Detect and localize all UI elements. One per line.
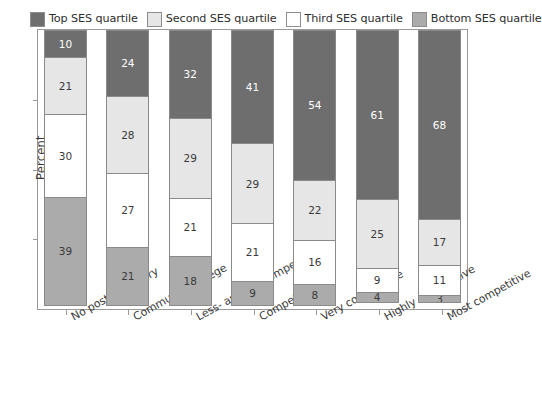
bar-segment: 39 [44,197,87,306]
y-axis-tick [33,100,38,101]
bar-segment-value: 18 [183,276,196,287]
y-axis-tick [33,170,38,171]
bar-segment-value: 21 [183,222,196,233]
bar-segment-value: 61 [370,110,383,121]
bar-segment-value: 28 [121,130,134,141]
bar-segment-value: 25 [370,229,383,240]
bar-segment: 11 [418,265,461,296]
bar-segment-value: 32 [183,69,196,80]
legend-item-label: Third SES quartile [305,13,403,24]
y-axis-tick [33,239,38,240]
bar-segment-value: 68 [433,120,446,131]
stacked-bar: 4129219 [231,30,274,309]
chart-legend: Top SES quartileSecond SES quartileThird… [30,9,478,29]
bar-segment-value: 9 [374,275,381,286]
stacked-bar: 5422168 [293,30,336,309]
bar-segment: 8 [293,284,336,306]
bar-segment-value: 9 [249,288,256,299]
bar-segment-value: 24 [121,58,134,69]
bar-segment: 61 [356,30,399,200]
legend-item: Bottom SES quartile [412,12,542,27]
legend-swatch-icon [30,12,45,27]
bar-segment-value: 21 [59,81,72,92]
bar-segment: 21 [169,198,212,257]
legend-swatch-icon [286,12,301,27]
bar-segment-value: 39 [59,246,72,257]
bar-segment: 10 [44,30,87,58]
legend-item: Second SES quartile [147,12,277,27]
bar-segment-value: 41 [246,82,259,93]
bars-container: 1021303924282721322921184129219542216861… [38,30,467,309]
bar-segment: 41 [231,30,274,144]
legend-item-label: Bottom SES quartile [431,13,542,24]
bar-segment: 17 [418,219,461,266]
stacked-bar: 612594 [356,30,399,309]
bar-segment: 9 [231,281,274,306]
bar-segment-value: 8 [311,290,318,301]
bar-segment: 22 [293,180,336,241]
bar-segment-value: 10 [59,39,72,50]
bar-segment: 24 [106,30,149,97]
bar-segment: 21 [231,223,274,282]
bar-segment: 3 [418,295,461,303]
bar-segment-value: 29 [183,153,196,164]
bar-segment-value: 17 [433,237,446,248]
stacked-bar: 6817113 [418,30,461,309]
bar-segment: 32 [169,30,212,119]
bar-segment: 16 [293,240,336,285]
bar-segment-value: 16 [308,257,321,268]
bar-segment: 27 [106,173,149,248]
stacked-bar: 10213039 [44,30,87,309]
bar-segment: 68 [418,30,461,220]
bar-segment-value: 21 [121,271,134,282]
bar-segment: 29 [231,143,274,224]
chart-plot-area: Percent 10213039242827213229211841292195… [37,29,468,310]
x-axis-labels: No postsecondaryCommunity collegeLess- a… [37,312,468,404]
bar-segment-value: 4 [374,292,381,303]
legend-swatch-icon [147,12,162,27]
bar-segment: 4 [356,292,399,303]
bar-segment-value: 29 [246,179,259,190]
bar-segment-value: 30 [59,151,72,162]
bar-segment: 25 [356,199,399,269]
bar-segment-value: 21 [246,247,259,258]
legend-swatch-icon [412,12,427,27]
bar-segment: 21 [44,57,87,116]
bar-segment: 28 [106,96,149,174]
legend-item-label: Top SES quartile [49,13,138,24]
legend-item: Third SES quartile [286,12,403,27]
bar-segment-value: 22 [308,205,321,216]
bar-segment: 29 [169,118,212,199]
stacked-bar: 32292118 [169,30,212,309]
stacked-bar: 24282721 [106,30,149,309]
bar-segment: 9 [356,268,399,293]
bar-segment: 18 [169,256,212,306]
bar-segment: 30 [44,114,87,198]
bar-segment-value: 3 [436,295,443,303]
legend-item: Top SES quartile [30,12,138,27]
bar-segment: 21 [106,247,149,306]
bar-segment-value: 54 [308,100,321,111]
bar-segment-value: 27 [121,205,134,216]
legend-item-label: Second SES quartile [166,13,277,24]
bar-segment: 54 [293,30,336,181]
bar-segment-value: 11 [433,275,446,286]
